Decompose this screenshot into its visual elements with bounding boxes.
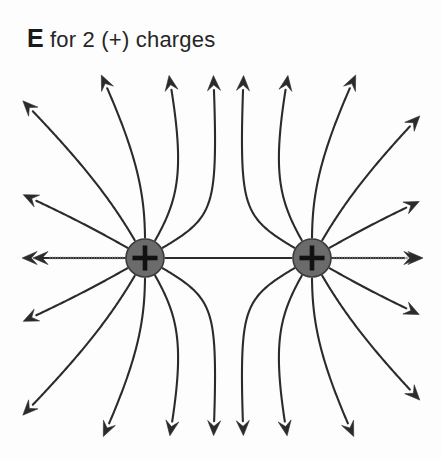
field-lines-canvas — [0, 0, 442, 459]
right-field-line-1 — [330, 268, 407, 308]
left-field-line-9 — [107, 88, 145, 237]
right-field-line-3 — [312, 279, 348, 424]
left-field-line-3 — [109, 279, 145, 424]
right-field-line-7 — [242, 90, 294, 248]
left-charge — [126, 239, 164, 277]
right-field-line-9 — [312, 88, 350, 237]
left-field-line-8 — [33, 111, 135, 240]
right-field-line-10 — [322, 126, 410, 240]
right-field-line-7-arrowhead — [237, 76, 250, 91]
right-field-line-8 — [279, 90, 302, 241]
right-field-line-2 — [322, 276, 410, 390]
right-field-line-5-arrowhead — [236, 420, 249, 435]
title-emphasis-E: E — [27, 24, 44, 52]
left-field-line-11-arrowhead — [208, 76, 221, 91]
right-field-line-5 — [242, 268, 294, 421]
right-charge-plus-vertical — [310, 245, 315, 270]
right-field-line-4 — [279, 276, 302, 422]
figure-title: E for 2 (+) charges — [27, 26, 215, 51]
left-charge-plus-vertical — [143, 245, 148, 270]
left-field-line-1-arrowhead — [208, 420, 221, 435]
field-diagram-figure: E for 2 (+) charges — [0, 0, 442, 459]
right-field-line-11 — [330, 208, 407, 248]
left-field-line-2 — [155, 276, 178, 422]
left-field-line-4 — [33, 276, 135, 405]
right-charge — [293, 239, 331, 277]
title-rest-text: for 2 (+) charges — [44, 27, 216, 52]
field-lines-group — [22, 75, 420, 437]
left-field-line-10 — [155, 90, 178, 241]
left-field-line-1 — [163, 268, 215, 421]
left-field-line-11 — [163, 90, 215, 248]
